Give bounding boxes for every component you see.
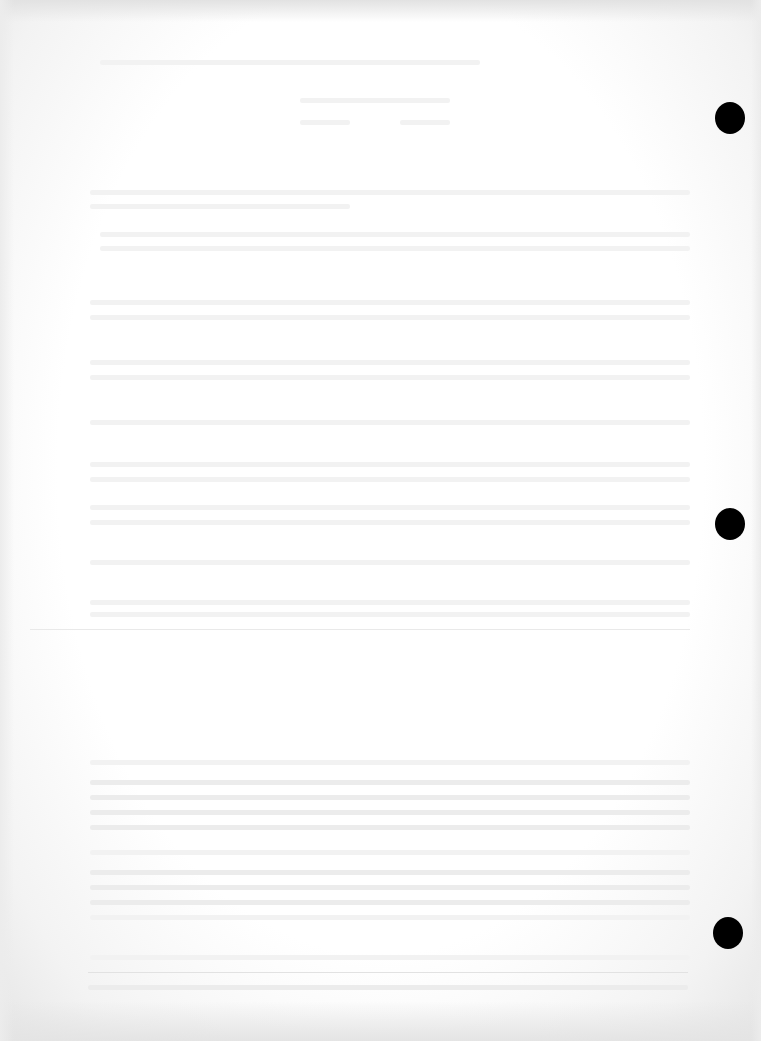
- scan-edge-left: [0, 0, 14, 1041]
- scan-edge-top: [0, 0, 761, 22]
- scanned-page: [0, 0, 761, 1041]
- horizontal-rule-bottom: [88, 972, 688, 973]
- horizontal-rule-middle: [30, 629, 690, 630]
- punch-hole-bottom: [713, 917, 743, 949]
- punch-hole-middle: [715, 508, 745, 540]
- scan-edge-right: [751, 0, 761, 1041]
- scan-edge-bottom: [0, 1001, 761, 1041]
- punch-hole-top: [715, 102, 745, 134]
